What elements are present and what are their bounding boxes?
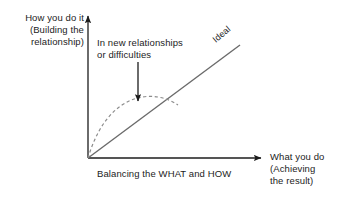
x-axis-label: What you do (Achieving the result) <box>270 151 324 188</box>
x-axis-caption: Balancing the WHAT and HOW <box>97 168 231 180</box>
ideal-line <box>88 45 240 158</box>
diagram-canvas: How you do it (Building the relationship… <box>0 0 341 202</box>
annotation-label: In new relationships or difficulties <box>97 37 183 61</box>
y-axis-label: How you do it (Building the relationship… <box>25 12 84 49</box>
